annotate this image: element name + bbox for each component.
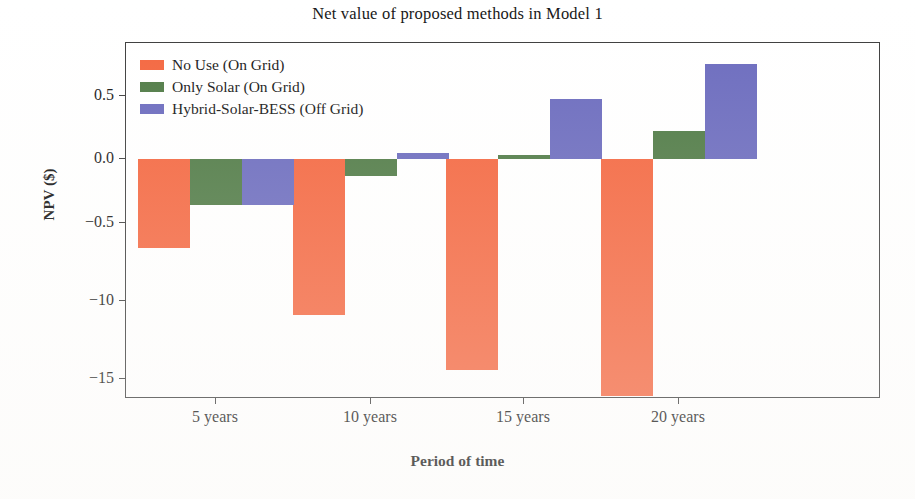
x-axis-tick-label: 15 years <box>458 408 588 426</box>
chart-legend: No Use (On Grid)Only Solar (On Grid)Hybr… <box>134 50 371 124</box>
bar <box>601 159 653 396</box>
y-axis-tick-labels: 0.50.0−0.5−10−15 <box>52 0 114 499</box>
bar <box>138 159 190 248</box>
x-axis-tick-label: 5 years <box>150 408 280 426</box>
x-axis-tick-label: 10 years <box>305 408 435 426</box>
bar <box>397 153 449 159</box>
y-axis-tick-label: −0.5 <box>56 213 114 231</box>
bar <box>293 159 345 315</box>
bar <box>498 155 550 159</box>
chart-title: Net value of proposed methods in Model 1 <box>0 4 915 24</box>
legend-swatch-icon <box>140 60 164 70</box>
legend-label: Hybrid-Solar-BESS (Off Grid) <box>172 101 363 117</box>
bar <box>190 159 242 205</box>
legend-swatch-icon <box>140 104 164 114</box>
x-axis-tick-mark <box>523 398 524 404</box>
legend-label: No Use (On Grid) <box>172 57 284 73</box>
bar <box>446 159 498 370</box>
x-axis-tick-mark <box>678 398 679 404</box>
legend-item[interactable]: Only Solar (On Grid) <box>140 76 363 97</box>
bar <box>550 99 602 159</box>
bar <box>242 159 294 205</box>
x-axis-tick-mark <box>370 398 371 404</box>
legend-swatch-icon <box>140 82 164 92</box>
legend-label: Only Solar (On Grid) <box>172 79 305 95</box>
bar <box>345 159 397 176</box>
bar <box>653 131 705 159</box>
x-axis-tick-label: 20 years <box>613 408 743 426</box>
y-axis-tick-label: −15 <box>56 369 114 387</box>
legend-item[interactable]: No Use (On Grid) <box>140 54 363 75</box>
y-axis-tick-label: 0.0 <box>56 149 114 167</box>
y-axis-tick-label: 0.5 <box>56 86 114 104</box>
x-axis-title: Period of time <box>0 452 915 470</box>
legend-item[interactable]: Hybrid-Solar-BESS (Off Grid) <box>140 98 363 119</box>
x-axis-tick-mark <box>215 398 216 404</box>
y-axis-tick-label: −10 <box>56 291 114 309</box>
bar <box>705 64 757 159</box>
chart-figure: Net value of proposed methods in Model 1… <box>0 0 915 499</box>
